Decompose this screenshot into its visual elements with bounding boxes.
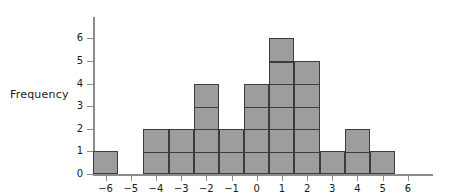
x-axis-tick: [106, 176, 107, 181]
x-axis-tick: [131, 176, 132, 181]
y-axis-tick-label: 0: [67, 169, 83, 179]
bar-unit-divider: [195, 107, 218, 108]
bar-unit-divider: [245, 107, 268, 108]
bar-unit-divider: [295, 84, 318, 85]
histogram-bar: [320, 151, 345, 174]
bar-unit-divider: [295, 152, 318, 153]
x-axis-tick-label: −5: [118, 184, 144, 192]
x-axis-tick: [156, 176, 157, 181]
bar-unit-divider: [270, 107, 293, 108]
y-axis-tick: [87, 129, 93, 130]
histogram-bar: [345, 129, 370, 174]
y-axis-tick-label: 6: [67, 33, 83, 43]
bar-unit-divider: [295, 107, 318, 108]
x-axis-tick-label: 0: [244, 184, 270, 192]
bar-unit-divider: [245, 129, 268, 130]
y-axis-tick: [87, 84, 93, 85]
x-axis-tick-label: 1: [269, 184, 295, 192]
histogram-bar: [370, 151, 395, 174]
x-axis-tick: [332, 176, 333, 181]
y-axis-tick: [87, 61, 93, 62]
x-axis-tick-label: −6: [93, 184, 119, 192]
bar-unit-divider: [195, 129, 218, 130]
x-axis-tick: [282, 176, 283, 181]
bar-unit-divider: [346, 152, 369, 153]
x-axis-tick-label: −3: [168, 184, 194, 192]
x-axis-tick-label: 3: [319, 184, 345, 192]
x-axis-tick-label: 2: [294, 184, 320, 192]
x-axis-tick-label: −2: [193, 184, 219, 192]
bar-unit-divider: [295, 129, 318, 130]
x-axis-tick: [307, 176, 308, 181]
bar-unit-divider: [270, 84, 293, 85]
histogram-bar: [143, 129, 168, 174]
x-axis-tick-label: 4: [344, 184, 370, 192]
x-axis-tick-label: 6: [395, 184, 421, 192]
x-axis-tick: [232, 176, 233, 181]
histogram-bar: [269, 38, 294, 174]
histogram-figure: Frequency 0123456 −6−5−4−3−2−10123456: [0, 0, 456, 192]
bar-unit-divider: [270, 61, 293, 62]
y-axis-tick-label: 1: [67, 146, 83, 156]
bar-unit-divider: [144, 152, 167, 153]
y-axis-tick-label: 5: [67, 56, 83, 66]
bar-unit-divider: [170, 152, 193, 153]
x-axis-tick: [383, 176, 384, 181]
y-axis-tick-label: 2: [67, 124, 83, 134]
histogram-bar: [194, 84, 219, 174]
bar-unit-divider: [245, 152, 268, 153]
y-axis-tick-label: 3: [67, 101, 83, 111]
bar-unit-divider: [270, 129, 293, 130]
y-axis-tick: [87, 106, 93, 107]
bar-unit-divider: [195, 152, 218, 153]
histogram-bar: [294, 61, 319, 174]
histogram-bar: [219, 129, 244, 174]
y-axis-tick: [87, 38, 93, 39]
x-axis-tick-label: 5: [370, 184, 396, 192]
plot-area: 0123456 −6−5−4−3−2−10123456: [93, 17, 433, 175]
x-axis-tick: [257, 176, 258, 181]
bar-unit-divider: [220, 152, 243, 153]
x-axis-tick-label: −1: [219, 184, 245, 192]
x-axis-tick: [206, 176, 207, 181]
x-axis-tick-label: −4: [143, 184, 169, 192]
histogram-bar: [169, 129, 194, 174]
x-axis-tick: [181, 176, 182, 181]
bar-unit-divider: [270, 152, 293, 153]
y-axis-label: Frequency: [10, 88, 80, 101]
x-axis-tick: [408, 176, 409, 181]
histogram-bar: [93, 151, 118, 174]
y-axis-tick-label: 4: [67, 79, 83, 89]
x-axis-tick: [357, 176, 358, 181]
histogram-bar: [244, 84, 269, 174]
y-axis-tick: [87, 174, 93, 175]
